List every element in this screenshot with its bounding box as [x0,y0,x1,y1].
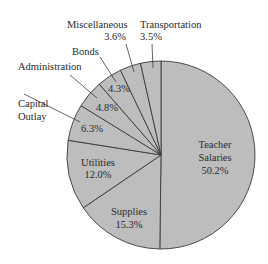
label-utilities: Utilities [81,157,115,168]
label-capital-outlay-2: Outlay [18,111,47,122]
label-transportation: Transportation [140,19,202,30]
pie-chart: Teacher Salaries 50.2% Supplies 15.3% Ut… [0,0,268,264]
pct-capital-outlay: 6.3% [81,123,103,134]
label-teacher-salaries: Teacher [198,139,232,150]
label-miscellaneous: Miscellaneous [67,19,128,30]
label-capital-outlay: Capital [18,98,48,109]
pct-utilities: 12.0% [84,169,111,180]
pct-teacher-salaries: 50.2% [201,165,228,176]
label-bonds: Bonds [72,46,99,57]
pct-supplies: 15.3% [115,219,142,230]
label-administration: Administration [18,61,82,72]
label-supplies: Supplies [111,206,147,217]
pct-miscellaneous: 3.6% [104,31,126,42]
pct-bonds: 4.3% [108,83,130,94]
label-teacher-salaries-2: Salaries [198,152,231,163]
pct-transportation: 3.5% [140,31,162,42]
pct-administration: 4.8% [96,102,118,113]
